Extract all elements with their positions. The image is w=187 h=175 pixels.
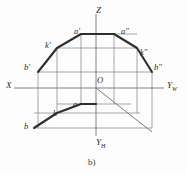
projection-drawing-canvas	[0, 0, 187, 175]
point-label-a-prime: a'	[74, 27, 80, 36]
descriptive-geometry-figure: X Z YW YH O a' a" k' k" b' b" a k b b)	[0, 0, 187, 175]
point-label-k-double-prime: k"	[140, 48, 147, 57]
axis-label-yh-subscript: H	[101, 143, 105, 149]
axis-label-z: Z	[96, 6, 101, 15]
axis-label-yw-subscript: W	[172, 86, 177, 92]
point-label-a-plan: a	[73, 100, 77, 109]
bisector-45-line	[96, 88, 152, 132]
point-label-b-prime: b'	[24, 63, 30, 72]
point-label-k-plan: k	[53, 109, 57, 118]
axis-label-x: X	[6, 81, 12, 90]
point-label-a-double-prime: a"	[121, 27, 129, 36]
point-label-k-prime: k'	[45, 41, 51, 50]
front-view-outline	[38, 34, 152, 72]
top-view-outline	[34, 104, 96, 128]
axis-label-yh: YH	[96, 138, 105, 149]
point-label-b-double-prime: b"	[154, 63, 162, 72]
figure-caption: b)	[88, 157, 96, 167]
origin-label: O	[97, 76, 103, 85]
axis-label-yw: YW	[167, 81, 177, 92]
coordinate-axes	[14, 14, 164, 136]
thin-construction-lines	[34, 34, 152, 128]
point-label-b-plan: b	[24, 122, 28, 131]
